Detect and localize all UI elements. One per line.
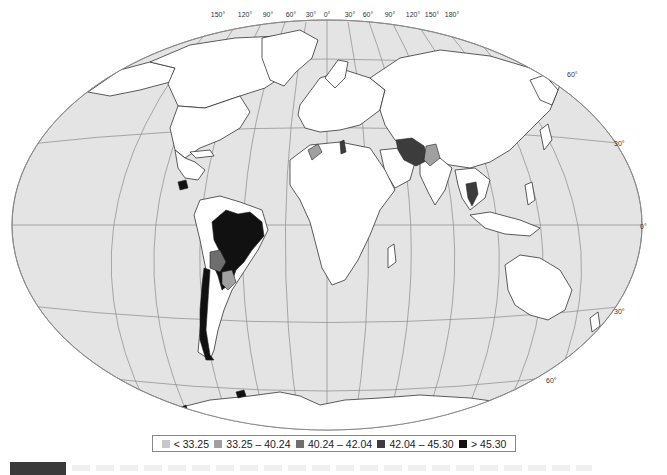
svg-text:90°: 90°: [263, 11, 274, 18]
world-map: 150° 120° 90° 60° 30° 0° 30° 60° 90° 120…: [0, 0, 667, 432]
svg-text:30°: 30°: [345, 11, 356, 18]
svg-text:180°: 180°: [445, 11, 460, 18]
svg-text:60°: 60°: [286, 11, 297, 18]
svg-text:150°: 150°: [211, 11, 226, 18]
svg-text:120°: 120°: [406, 11, 421, 18]
legend-label: > 45.30: [471, 438, 506, 450]
svg-text:0°: 0°: [324, 11, 331, 18]
svg-text:150°: 150°: [425, 11, 440, 18]
svg-text:60°: 60°: [567, 71, 578, 78]
svg-text:30°: 30°: [614, 308, 625, 315]
legend-swatch: [459, 440, 467, 448]
legend-item: 33.25 – 40.24: [214, 438, 290, 450]
legend-label: 40.24 – 42.04: [308, 438, 372, 450]
svg-text:30°: 30°: [306, 11, 317, 18]
legend-label: 42.04 – 45.30: [389, 438, 453, 450]
legend-item: < 33.25: [162, 438, 209, 450]
svg-text:90°: 90°: [385, 11, 396, 18]
legend-item: 42.04 – 45.30: [377, 438, 453, 450]
figure-label-block: [10, 462, 66, 475]
legend-item: 40.24 – 42.04: [296, 438, 372, 450]
region-central-america: [178, 180, 188, 190]
svg-text:60°: 60°: [363, 11, 374, 18]
caption-faded-text: [72, 465, 592, 471]
legend-item: > 45.30: [459, 438, 506, 450]
svg-text:0°: 0°: [640, 223, 647, 230]
legend-swatch: [214, 440, 222, 448]
legend-swatch: [162, 440, 170, 448]
svg-text:120°: 120°: [238, 11, 253, 18]
longitude-labels: 150° 120° 90° 60° 30° 0° 30° 60° 90° 120…: [211, 11, 460, 18]
map-legend: < 33.25 33.25 – 40.24 40.24 – 42.04 42.0…: [152, 435, 516, 452]
svg-text:60°: 60°: [546, 377, 557, 384]
legend-swatch: [296, 440, 304, 448]
legend-label: < 33.25: [174, 438, 209, 450]
legend-label: 33.25 – 40.24: [226, 438, 290, 450]
svg-text:30°: 30°: [614, 140, 625, 147]
legend-swatch: [377, 440, 385, 448]
